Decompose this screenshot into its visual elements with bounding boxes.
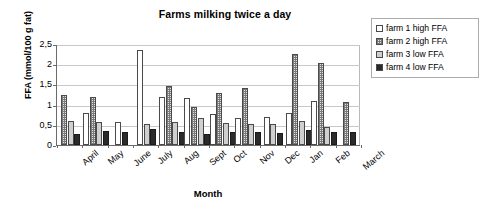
bar	[324, 127, 330, 145]
bar	[159, 97, 165, 145]
bar	[248, 124, 254, 145]
legend-item[interactable]: farm 4 low FFA	[376, 61, 475, 74]
x-tick-label: Nov	[257, 148, 276, 166]
bar	[198, 118, 204, 145]
x-axis-tick-labels: AprilMayJuneJulyAugSeptOctNovDecJanFebMa…	[56, 148, 360, 184]
chart-legend: farm 1 high FFAfarm 2 high FFAfarm 3 low…	[371, 18, 479, 78]
x-tick-label: July	[156, 148, 175, 166]
chart-title: Farms milking twice a day	[110, 8, 340, 20]
x-tick-label: Feb	[333, 148, 351, 166]
bar	[270, 124, 276, 145]
bar	[166, 86, 172, 145]
bar	[115, 122, 121, 145]
bar	[242, 88, 248, 145]
x-tick-label: Aug	[181, 148, 200, 166]
chart-figure: Farms milking twice a day FFA (mmol/100 …	[0, 0, 484, 216]
bar	[122, 132, 128, 145]
y-tick-mark	[53, 126, 56, 127]
bar	[223, 123, 229, 145]
bar	[210, 114, 216, 146]
y-tick-label: 2	[26, 60, 52, 69]
bar	[277, 133, 283, 145]
y-tick-mark	[53, 146, 56, 147]
x-tick-label: June	[131, 148, 152, 168]
y-axis-tick-labels: 00,511,522,5	[22, 45, 52, 146]
legend-item[interactable]: farm 3 low FFA	[376, 48, 475, 61]
x-tick-label: Sept	[207, 148, 228, 168]
bar	[137, 50, 143, 145]
bar	[235, 118, 241, 145]
bar	[172, 122, 178, 145]
legend-swatch-icon	[376, 64, 383, 71]
plot-area	[56, 45, 360, 146]
bar-group	[234, 45, 259, 145]
bar	[74, 134, 80, 145]
legend-item[interactable]: farm 1 high FFA	[376, 22, 475, 35]
bar	[299, 121, 305, 145]
bar	[150, 129, 156, 145]
y-tick-mark	[53, 106, 56, 107]
bar	[264, 117, 270, 145]
x-tick-label: March	[361, 148, 387, 172]
bar-group	[57, 45, 82, 145]
y-tick-mark	[53, 85, 56, 86]
bar	[96, 122, 102, 145]
bar-group	[285, 45, 310, 145]
legend-item[interactable]: farm 2 high FFA	[376, 35, 475, 48]
y-tick-label: 1,5	[26, 80, 52, 89]
y-tick-label: 0,5	[26, 121, 52, 130]
bar-group	[310, 45, 335, 145]
bar-group	[209, 45, 234, 145]
bar	[343, 102, 349, 145]
legend-swatch-icon	[376, 38, 383, 45]
bar-group	[82, 45, 107, 145]
y-tick-label: 2,5	[26, 40, 52, 49]
y-tick-mark	[53, 65, 56, 66]
bar	[68, 121, 74, 145]
legend-label: farm 2 high FFA	[386, 37, 447, 46]
x-tick-label: April	[80, 148, 100, 167]
y-tick-label: 1	[26, 101, 52, 110]
bar	[350, 132, 356, 145]
x-tick-label: Oct	[232, 148, 249, 165]
bar	[191, 107, 197, 145]
bar-group	[158, 45, 183, 145]
x-tick-label: Jan	[308, 148, 326, 165]
bar	[90, 97, 96, 145]
bar-group	[133, 45, 158, 145]
bar	[292, 54, 298, 145]
x-axis-title: Month	[56, 188, 360, 199]
bar	[286, 113, 292, 145]
bar	[216, 93, 222, 145]
bar	[318, 63, 324, 145]
legend-label: farm 3 low FFA	[386, 50, 444, 59]
x-tick-mark	[361, 145, 362, 148]
bar-group	[184, 45, 209, 145]
bar-group	[108, 45, 133, 145]
y-tick-mark	[53, 45, 56, 46]
legend-swatch-icon	[376, 25, 383, 32]
bar	[61, 95, 67, 146]
bar	[184, 98, 190, 145]
legend-swatch-icon	[376, 51, 383, 58]
y-tick-label: 0	[26, 141, 52, 150]
x-tick-label: Dec	[283, 148, 302, 166]
bar	[311, 101, 317, 145]
bar-group	[260, 45, 285, 145]
legend-label: farm 1 high FFA	[386, 24, 447, 33]
x-tick-label: May	[106, 148, 125, 167]
bar-group	[336, 45, 361, 145]
legend-label: farm 4 low FFA	[386, 63, 444, 72]
bar	[144, 124, 150, 145]
bar	[83, 113, 89, 145]
